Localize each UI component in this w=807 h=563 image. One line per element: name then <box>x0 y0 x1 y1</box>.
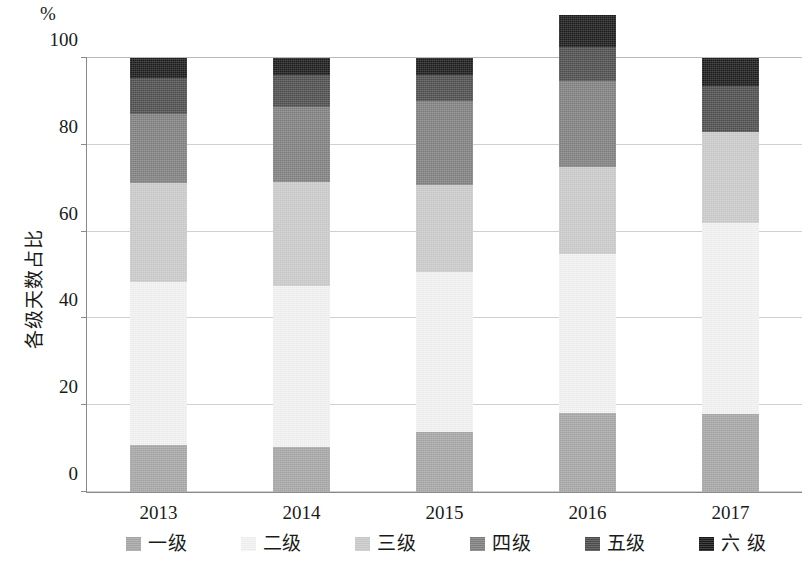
bar-stack[interactable] <box>416 58 472 492</box>
bar-stack[interactable] <box>702 58 758 492</box>
y-tick-label-100: 100 <box>8 30 78 49</box>
bar-segment-2017-三级[interactable] <box>702 132 758 223</box>
bar-segment-2014-四级[interactable] <box>273 107 329 182</box>
legend-label: 五级 <box>607 534 646 553</box>
legend-swatch-icon <box>585 537 600 551</box>
bar-segment-2015-一级[interactable] <box>416 432 472 492</box>
bar-segment-2014-一级[interactable] <box>273 447 329 492</box>
bar-segment-2017-一级[interactable] <box>702 414 758 492</box>
bar-group-2015: 2015 <box>373 58 516 492</box>
bar-group-2013: 2013 <box>87 58 230 492</box>
legend-swatch-icon <box>126 537 141 551</box>
legend-swatch-icon <box>470 537 485 551</box>
legend-item-4[interactable]: 四级 <box>470 534 531 553</box>
y-tick-label-40: 40 <box>8 290 78 309</box>
legend-swatch-icon <box>241 537 256 551</box>
legend-label: 六 级 <box>721 534 767 553</box>
bar-segment-2016-五级[interactable] <box>559 47 615 81</box>
legend-swatch-icon <box>355 537 370 551</box>
bar-segment-2013-六级[interactable] <box>130 58 186 78</box>
bar-segment-2015-五级[interactable] <box>416 75 472 101</box>
bar-group-2016: 2016 <box>516 58 659 492</box>
legend-item-1[interactable]: 一级 <box>126 534 187 553</box>
bar-group-2017: 2017 <box>659 58 802 492</box>
y-axis-unit-label: % <box>40 4 56 23</box>
legend-swatch-icon <box>699 537 714 551</box>
bar-segment-2016-六级[interactable] <box>559 15 615 47</box>
bar-segment-2016-四级[interactable] <box>559 81 615 167</box>
bar-segment-2017-六级[interactable] <box>702 58 758 86</box>
bar-segment-2013-一级[interactable] <box>130 445 186 492</box>
legend-item-2[interactable]: 二级 <box>241 534 302 553</box>
x-tick-label-2016: 2016 <box>516 503 659 522</box>
bar-segment-2016-一级[interactable] <box>559 413 615 492</box>
bar-segment-2013-二级[interactable] <box>130 282 186 445</box>
bar-segment-2013-三级[interactable] <box>130 183 186 282</box>
bar-segment-2015-二级[interactable] <box>416 272 472 432</box>
bar-segment-2014-二级[interactable] <box>273 286 329 447</box>
stacked-bar-chart: % 各级天数占比 020406080100 201320142015201620… <box>0 0 807 563</box>
legend-label: 一级 <box>148 534 187 553</box>
bar-group-2014: 2014 <box>230 58 373 492</box>
y-tick-label-20: 20 <box>8 377 78 396</box>
bar-segment-2016-三级[interactable] <box>559 167 615 255</box>
legend-item-6[interactable]: 六 级 <box>699 534 767 553</box>
legend-label: 四级 <box>492 534 531 553</box>
legend-item-5[interactable]: 五级 <box>585 534 646 553</box>
bar-segment-2017-二级[interactable] <box>702 223 758 414</box>
y-tick-label-60: 60 <box>8 203 78 222</box>
bar-segment-2013-五级[interactable] <box>130 78 186 114</box>
x-tick-label-2017: 2017 <box>659 503 802 522</box>
bar-stack[interactable] <box>559 58 615 492</box>
x-tick-label-2014: 2014 <box>230 503 373 522</box>
legend-label: 二级 <box>263 534 302 553</box>
bars-layer: 20132014201520162017 <box>87 58 802 492</box>
x-tick-label-2013: 2013 <box>87 503 230 522</box>
bar-segment-2015-六级[interactable] <box>416 58 472 75</box>
bar-stack[interactable] <box>130 58 186 492</box>
plot-area: 020406080100 20132014201520162017 <box>86 58 802 493</box>
chart-legend: 一级二级三级四级五级六 级 <box>86 534 801 553</box>
bar-segment-2016-二级[interactable] <box>559 254 615 413</box>
y-tick-label-80: 80 <box>8 116 78 135</box>
bar-segment-2014-五级[interactable] <box>273 75 329 107</box>
bar-segment-2014-三级[interactable] <box>273 182 329 286</box>
bar-segment-2013-四级[interactable] <box>130 114 186 183</box>
y-tick-label-0: 0 <box>8 464 78 483</box>
legend-item-3[interactable]: 三级 <box>355 534 416 553</box>
legend-label: 三级 <box>377 534 416 553</box>
bar-stack[interactable] <box>273 58 329 492</box>
bar-segment-2017-五级[interactable] <box>702 86 758 132</box>
x-tick-label-2015: 2015 <box>373 503 516 522</box>
bar-segment-2014-六级[interactable] <box>273 58 329 75</box>
bar-segment-2015-三级[interactable] <box>416 185 472 272</box>
bar-segment-2015-四级[interactable] <box>416 101 472 185</box>
